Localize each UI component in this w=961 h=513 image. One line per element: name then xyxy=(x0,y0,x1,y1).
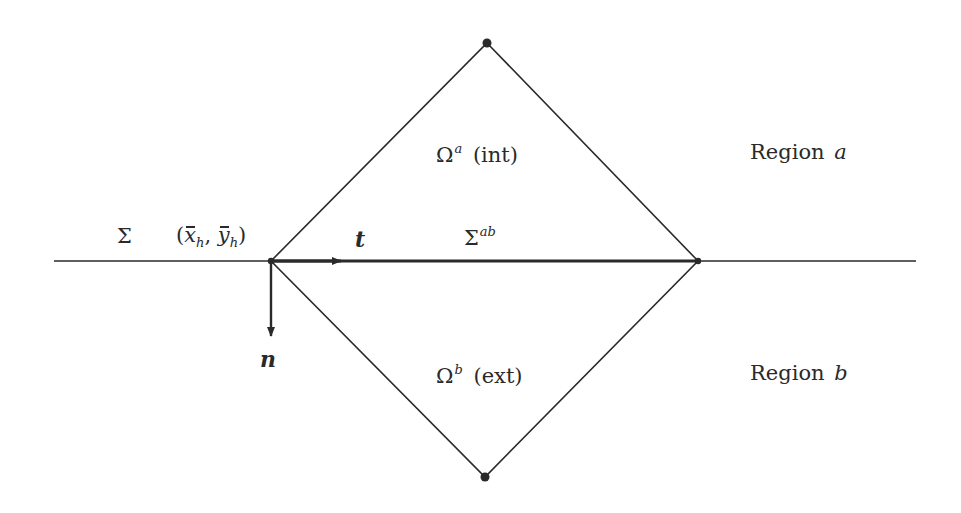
open-paren: ( xyxy=(176,223,184,247)
t-symbol: t xyxy=(355,226,365,252)
omega-a-label: Ωa (int) xyxy=(436,142,518,166)
omega-b-superscript: b xyxy=(454,362,462,377)
right-vertex-dot xyxy=(695,258,701,264)
comma: , xyxy=(204,223,217,247)
tangent-vector-label: t xyxy=(355,228,365,250)
point-coordinates-label: (xh, yh) xyxy=(176,225,246,249)
omega-b-symbol: Ω xyxy=(436,364,453,388)
sigma-ab-superscript: ab xyxy=(480,224,496,239)
y-bar-symbol: y xyxy=(218,225,230,246)
omega-a-symbol: Ω xyxy=(436,143,453,167)
normal-vector-label: n xyxy=(260,348,276,370)
x-bar-symbol: x xyxy=(184,225,196,246)
sigma-symbol: Σ xyxy=(117,224,132,248)
omega-b-qualifier: (ext) xyxy=(473,364,522,388)
omega-a-qualifier: (int) xyxy=(473,143,518,167)
region-a-letter: a xyxy=(834,140,847,164)
omega-b-label: Ωb (ext) xyxy=(436,363,523,387)
left-vertex-dot xyxy=(268,258,274,264)
y-subscript: h xyxy=(230,235,238,250)
n-symbol: n xyxy=(260,346,276,372)
sigma-ab-symbol: Σ xyxy=(464,226,479,250)
region-b-letter: b xyxy=(834,361,847,385)
domain-diagram xyxy=(0,0,961,513)
region-a-word: Region xyxy=(750,140,825,164)
region-b-label: Region b xyxy=(750,363,848,384)
top-vertex-dot xyxy=(483,39,492,48)
bottom-vertex-dot xyxy=(481,473,490,482)
close-paren: ) xyxy=(238,223,246,247)
region-b-word: Region xyxy=(750,361,825,385)
sigma-label: Σ xyxy=(117,226,132,247)
sub-interface-label: Σab xyxy=(464,225,496,249)
omega-a-superscript: a xyxy=(454,141,462,156)
region-a-label: Region a xyxy=(750,142,847,163)
